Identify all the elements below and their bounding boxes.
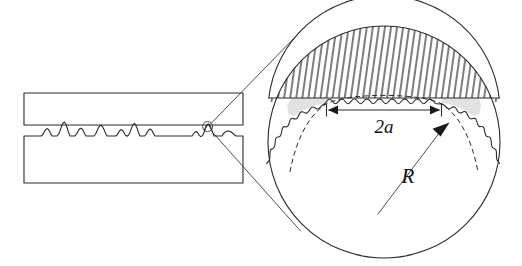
radius-label: R bbox=[401, 164, 415, 188]
radius-arrowhead bbox=[433, 123, 450, 137]
gap-left bbox=[287, 98, 329, 116]
magnification-connectors bbox=[211, 32, 301, 232]
connector-lower bbox=[211, 131, 301, 232]
micro-contact-asperities bbox=[324, 99, 442, 104]
contact-mechanics-diagram: 2a R bbox=[0, 0, 522, 266]
macro-view bbox=[24, 93, 243, 183]
upper-flat-block bbox=[24, 93, 243, 125]
contact-width-dimension: 2a bbox=[327, 105, 442, 138]
contact-width-arrow-left bbox=[328, 105, 338, 114]
contact-width-arrow-right bbox=[430, 105, 440, 114]
contact-width-label: 2a bbox=[375, 116, 394, 137]
figure-root: 2a R bbox=[0, 0, 522, 266]
magnified-view: 2a R bbox=[262, 0, 506, 258]
